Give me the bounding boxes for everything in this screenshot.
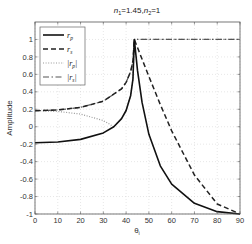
y-tick-label: 0.8 [23,53,33,62]
y-tick-label: 0.2 [23,105,33,114]
x-tick-label: 30 [99,216,107,225]
x-tick-label: 20 [76,216,84,225]
x-tick-label: 90 [236,216,244,225]
y-tick-label: 0.4 [23,87,33,96]
svg-text:n1=1.45,n2=1: n1=1.45,n2=1 [114,6,161,16]
y-tick-label: 1 [29,35,33,44]
y-tick-label: -0.6 [20,175,33,184]
svg-text:Amplitude: Amplitude [5,100,14,136]
y-tick-label: -0.8 [20,192,33,201]
y-tick-label: 0 [29,122,33,131]
chart: n1=1.45,n2=1 0102030405060708090 -1-0.8-… [0,0,252,244]
y-tick-label: -1 [26,210,33,219]
x-tick-labels: 0102030405060708090 [33,216,244,225]
y-tick-label: -0.4 [20,157,33,166]
svg-text:θi: θi [134,226,140,236]
y-axis-label: Amplitude [5,100,14,136]
y-tick-label: 0.6 [23,70,33,79]
x-tick-label: 80 [213,216,221,225]
x-tick-label: 40 [122,216,130,225]
x-tick-label: 0 [33,216,37,225]
x-tick-label: 60 [167,216,175,225]
x-tick-label: 70 [190,216,198,225]
legend: rprs|rp||rs| [40,27,85,85]
x-tick-label: 50 [145,216,153,225]
legend-label: |rs| [67,73,77,83]
x-axis-label: θi [134,226,140,236]
x-tick-label: 10 [54,216,62,225]
chart-title: n1=1.45,n2=1 [114,6,161,16]
y-tick-labels: -1-0.8-0.6-0.4-0.200.20.40.60.81 [20,35,33,219]
legend-label: |rp| [67,59,77,69]
y-tick-label: -0.2 [20,140,33,149]
